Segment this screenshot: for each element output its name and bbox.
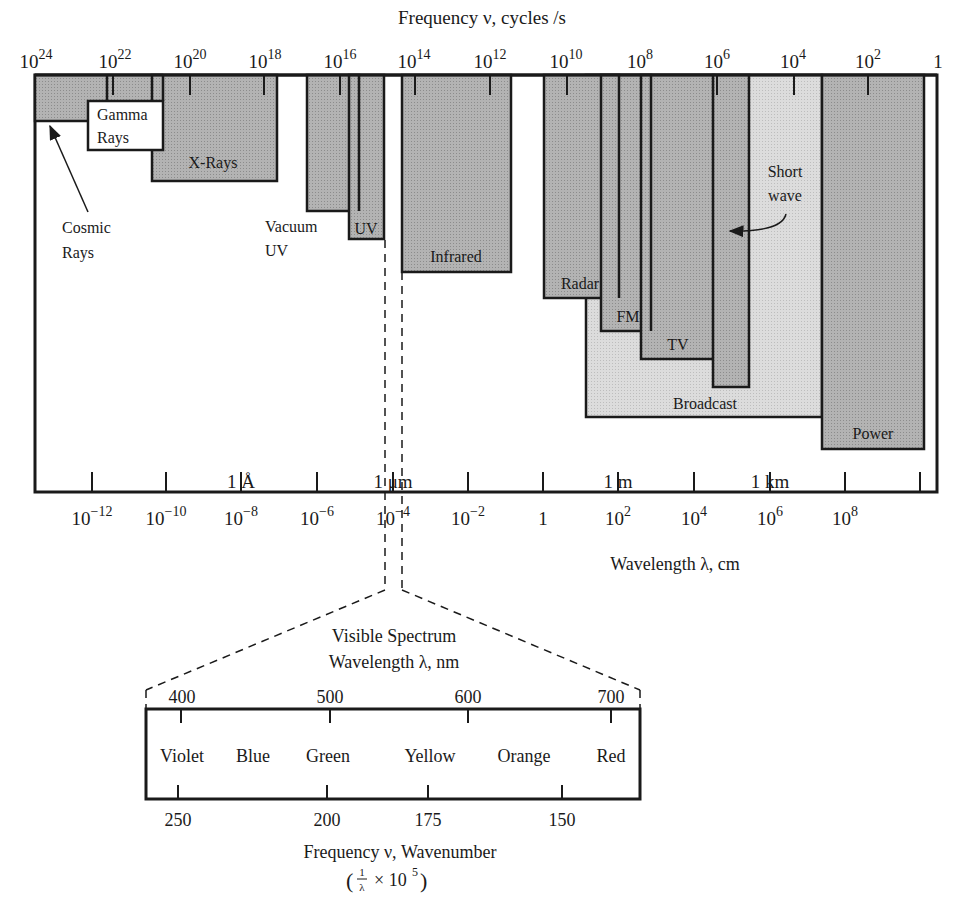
- top-axis-title: Frequency ν, cycles /s: [398, 7, 566, 28]
- top-tick-label: 1024: [20, 47, 53, 72]
- bottom-tick-label: 10−10: [146, 504, 187, 529]
- top-tick-label: 106: [704, 47, 730, 72]
- visible-color-label: Orange: [498, 746, 551, 766]
- bottom-axis-title: Wavelength λ, cm: [610, 554, 740, 574]
- visible-wavelength-tick: 500: [317, 687, 344, 707]
- top-tick-label: 1020: [174, 47, 207, 72]
- band-infrared: [402, 75, 511, 272]
- label-x-rays: X-Rays: [189, 154, 238, 172]
- visible-wavelength-tick: 400: [169, 687, 196, 707]
- visible-frequency-tick: 250: [165, 810, 192, 830]
- band-power: [822, 75, 924, 449]
- visible-color-label: Yellow: [404, 746, 455, 766]
- svg-text:): ): [420, 868, 427, 893]
- label-short-wave-2: wave: [768, 187, 802, 204]
- label-fm: FM: [616, 308, 639, 325]
- bottom-tick-label: 10−6: [300, 504, 334, 529]
- top-tick-label: 102: [855, 47, 881, 72]
- bottom-tick-label: 108: [832, 504, 858, 529]
- visible-wavelength-tick: 700: [598, 687, 625, 707]
- visible-frequency-tick-labels: 250200175150: [165, 810, 576, 830]
- visible-frequency-title: Frequency ν, Wavenumber: [303, 842, 496, 862]
- visible-frequency-tick: 175: [415, 810, 442, 830]
- visible-spectrum-title: Visible Spectrum: [332, 626, 456, 646]
- visible-color-label: Blue: [236, 746, 270, 766]
- label-vacuum-uv-1: Vacuum: [265, 218, 318, 235]
- top-tick-label: 1010: [550, 47, 583, 72]
- label-vacuum-uv-2: UV: [265, 242, 289, 259]
- top-axis-tick-labels: 1024102210201018101610141012101010810610…: [20, 47, 943, 72]
- bottom-tick-label: 106: [757, 504, 783, 529]
- electromagnetic-spectrum-diagram: Frequency ν, cycles /s 10241022102010181…: [0, 0, 965, 921]
- label-broadcast: Broadcast: [673, 395, 738, 412]
- visible-frequency-formula: ( 1 λ × 10 5 ): [346, 865, 427, 893]
- bottom-tick-label: 1: [538, 508, 548, 529]
- label-tv: TV: [667, 336, 689, 353]
- bottom-tick-label: 104: [681, 504, 707, 529]
- visible-frequency-tick: 200: [314, 810, 341, 830]
- label-uv: UV: [354, 220, 378, 237]
- top-tick-label: 108: [627, 47, 653, 72]
- label-cosmic-1: Cosmic: [62, 219, 111, 236]
- top-tick-label: 104: [780, 47, 806, 72]
- visible-wavelength-tick: 600: [455, 687, 482, 707]
- visible-frequency-tick: 150: [549, 810, 576, 830]
- svg-text:5: 5: [412, 865, 418, 879]
- label-infrared: Infrared: [430, 248, 482, 265]
- top-tick-label: 1014: [398, 47, 431, 72]
- svg-text:(: (: [346, 868, 353, 893]
- bottom-tick-label: 10−8: [224, 504, 258, 529]
- label-short-wave-1: Short: [768, 163, 803, 180]
- label-radar: Radar: [561, 275, 600, 292]
- bottom-axis-tick-labels: 10−1210−1010−810−610−410−21102104106108: [72, 504, 858, 529]
- top-tick-label: 1022: [99, 47, 132, 72]
- visible-color-label: Red: [597, 746, 626, 766]
- bottom-tick-label: 10−2: [451, 504, 485, 529]
- visible-spectrum-box: [146, 709, 640, 799]
- bottom-tick-label: 10−12: [72, 504, 113, 529]
- visible-color-label: Green: [306, 746, 350, 766]
- bottom-tick-label: 10−4: [376, 504, 410, 529]
- label-gamma-2: Rays: [97, 129, 129, 147]
- band-uv: [349, 75, 384, 239]
- top-tick-label: 1018: [249, 47, 282, 72]
- svg-text:1: 1: [359, 866, 365, 878]
- svg-text:λ: λ: [359, 881, 365, 893]
- top-tick-label: 1016: [324, 47, 357, 72]
- bottom-tick-label: 102: [605, 504, 631, 529]
- svg-text:× 10: × 10: [374, 870, 407, 890]
- top-tick-label: 1: [933, 51, 943, 72]
- visible-color-label: Violet: [160, 746, 204, 766]
- top-tick-label: 1012: [474, 47, 507, 72]
- label-gamma-1: Gamma: [97, 106, 148, 123]
- label-cosmic-2: Rays: [62, 244, 94, 262]
- label-power: Power: [853, 425, 895, 442]
- visible-wavelength-title: Wavelength λ, nm: [329, 652, 460, 672]
- visible-wavelength-tick-labels: 400500600700: [169, 687, 625, 707]
